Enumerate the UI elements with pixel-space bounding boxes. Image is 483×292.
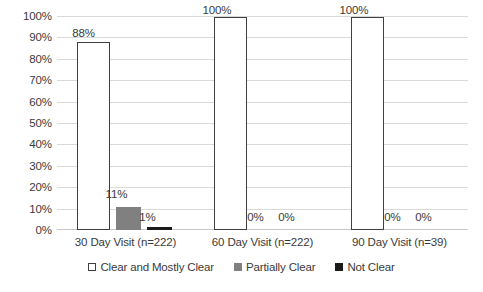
bar-clear-30day bbox=[77, 42, 110, 230]
chart-legend: Clear and Mostly Clear Partially Clear N… bbox=[0, 261, 483, 273]
y-tick-0: 0% bbox=[0, 225, 52, 236]
category-label-30day: 30 Day Visit (n=222) bbox=[57, 236, 194, 248]
data-label-clear-60day: 100% bbox=[192, 4, 242, 16]
legend-label-clear: Clear and Mostly Clear bbox=[100, 261, 214, 273]
y-tick-90: 90% bbox=[0, 32, 52, 43]
y-tick-40: 40% bbox=[0, 139, 52, 150]
y-axis: 100% 90% 80% 70% 60% 50% 40% 30% 20% 10%… bbox=[0, 0, 52, 292]
legend-swatch-icon-clear bbox=[88, 263, 96, 271]
data-label-notclear-90day: 0% bbox=[401, 211, 446, 223]
data-label-notclear-30day: 1% bbox=[125, 211, 170, 223]
y-tick-30: 30% bbox=[0, 161, 52, 172]
gridline-50 bbox=[57, 123, 468, 124]
legend-label-partial: Partially Clear bbox=[246, 261, 315, 273]
y-tick-10: 10% bbox=[0, 204, 52, 215]
bar-notclear-30day bbox=[147, 227, 172, 230]
gridline-40 bbox=[57, 144, 468, 145]
data-label-clear-30day: 88% bbox=[61, 27, 106, 39]
data-label-partial-30day: 11% bbox=[94, 188, 139, 200]
gridline-100 bbox=[57, 16, 468, 17]
y-tick-80: 80% bbox=[0, 54, 52, 65]
legend-item-partially-clear[interactable]: Partially Clear bbox=[234, 261, 315, 273]
data-label-notclear-60day: 0% bbox=[264, 211, 309, 223]
legend-item-clear-and-mostly-clear[interactable]: Clear and Mostly Clear bbox=[88, 261, 214, 273]
y-tick-60: 60% bbox=[0, 97, 52, 108]
category-label-90day: 90 Day Visit (n=39) bbox=[331, 236, 468, 248]
legend-item-not-clear[interactable]: Not Clear bbox=[335, 261, 394, 273]
gridline-80 bbox=[57, 59, 468, 60]
data-label-clear-90day: 100% bbox=[329, 4, 379, 16]
bar-clear-60day bbox=[214, 17, 247, 230]
bar-chart: 100% 90% 80% 70% 60% 50% 40% 30% 20% 10%… bbox=[0, 0, 483, 292]
y-tick-100: 100% bbox=[0, 11, 52, 22]
bar-clear-90day bbox=[351, 17, 384, 230]
gridline-60 bbox=[57, 102, 468, 103]
y-tick-50: 50% bbox=[0, 118, 52, 129]
y-tick-70: 70% bbox=[0, 75, 52, 86]
legend-swatch-icon-partial bbox=[234, 263, 242, 271]
gridline-30 bbox=[57, 166, 468, 167]
category-label-60day: 60 Day Visit (n=222) bbox=[194, 236, 331, 248]
y-tick-20: 20% bbox=[0, 182, 52, 193]
legend-swatch-icon-notclear bbox=[335, 263, 343, 271]
gridline-70 bbox=[57, 80, 468, 81]
legend-label-notclear: Not Clear bbox=[347, 261, 394, 273]
gridline-90 bbox=[57, 37, 468, 38]
